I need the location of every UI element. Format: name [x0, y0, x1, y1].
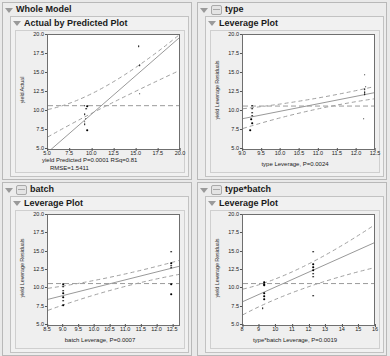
disclosure-triangle-icon[interactable]: [13, 21, 21, 26]
x-tick-label: 11.0: [120, 326, 130, 332]
x-tick-label: 10: [272, 326, 278, 332]
x-tick-label: 12.0: [151, 326, 162, 332]
data-point: [84, 123, 86, 125]
subpanel-header[interactable]: Actual by Predicted Plot: [11, 17, 188, 29]
plot-shell: yield Actual 20.017.515.012.510.07.55.0 …: [15, 30, 185, 173]
x-tick-label: 5.0: [43, 150, 51, 156]
subpanel-title: Leverage Plot: [24, 198, 83, 209]
y-tick-label: 15.0: [33, 248, 44, 254]
chart-whole-model: yield Actual 20.017.515.012.510.07.55.0 …: [16, 31, 184, 172]
y-tick-label: 15.0: [33, 69, 44, 75]
data-point: [252, 122, 254, 124]
panel-header-batch[interactable]: batch: [3, 183, 191, 196]
x-tick-label: 10.0: [275, 150, 286, 156]
y-axis-ticks: 20.017.515.012.510.07.55.0: [221, 34, 241, 148]
outer-box-batch: batch Leverage Plot yield Leverage Resid…: [2, 182, 192, 356]
y-tick-label: 20.0: [33, 211, 44, 217]
x-tick-label: 7.5: [65, 150, 73, 156]
y-axis-ticks: 20.017.515.012.510.07.55.0: [221, 214, 241, 324]
panel-header-type[interactable]: type: [198, 3, 386, 16]
y-axis-ticks: 20.017.515.012.510.07.55.0: [26, 34, 46, 148]
subpanel-header[interactable]: Leverage Plot: [206, 197, 383, 209]
data-point: [170, 267, 172, 269]
x-tick-label: 20.0: [175, 150, 186, 156]
data-point: [364, 88, 366, 90]
y-tick-label: 10.0: [33, 107, 44, 113]
data-point: [63, 304, 65, 306]
fit-line: [48, 38, 179, 149]
chart-batch: yield Leverage Residuals 20.017.515.012.…: [16, 211, 184, 348]
confidence-upper-curve: [48, 260, 179, 288]
y-tick-label: 12.5: [33, 266, 44, 272]
y-tick-label: 20.0: [228, 211, 239, 217]
data-point: [364, 93, 366, 95]
data-point: [84, 113, 86, 115]
disclosure-triangle-icon[interactable]: [208, 21, 216, 26]
subpanel-title: Leverage Plot: [219, 18, 278, 29]
x-tick-label: 8: [240, 326, 243, 332]
data-point: [313, 295, 315, 297]
data-point: [86, 108, 88, 110]
data-point: [139, 93, 141, 95]
x-tick-label: 9.0: [238, 150, 246, 156]
data-point: [263, 293, 265, 295]
data-point: [63, 286, 65, 288]
y-tick-label: 17.5: [228, 50, 239, 56]
subpanel-header[interactable]: Leverage Plot: [11, 197, 188, 209]
disclosure-triangle-icon[interactable]: [200, 8, 208, 13]
panel-type-batch: type*batch Leverage Plot yield Leverage …: [195, 180, 390, 356]
data-point: [313, 266, 315, 268]
rmse-label: RMSE=1.5411: [16, 165, 184, 171]
subpanel-title: Actual by Predicted Plot: [24, 18, 128, 29]
data-point: [252, 108, 254, 110]
data-point: [85, 118, 87, 120]
x-axis-label: type*batch Leverage, P=0.0019: [211, 337, 379, 343]
data-point: [63, 293, 65, 295]
plot-area: [242, 214, 375, 326]
x-tick-label: 12.0: [351, 150, 362, 156]
data-point: [63, 283, 65, 285]
disclosure-triangle-icon[interactable]: [5, 188, 13, 193]
y-tick-label: 7.5: [36, 303, 44, 309]
y-tick-label: 17.5: [33, 229, 44, 235]
data-point: [138, 46, 140, 48]
data-point: [87, 129, 89, 131]
panel-header-type-batch[interactable]: type*batch: [198, 183, 386, 196]
confidence-lower-curve: [48, 71, 179, 137]
y-tick-label: 17.5: [33, 50, 44, 56]
panel-type: type Leverage Plot yield Leverage Residu…: [195, 0, 390, 180]
plot-area: [47, 214, 180, 326]
data-point: [252, 112, 254, 114]
data-point: [139, 65, 141, 67]
outer-box-whole-model: Whole Model Actual by Predicted Plot yie…: [2, 2, 192, 180]
y-tick-label: 10.0: [228, 284, 239, 290]
disclosure-triangle-icon[interactable]: [5, 8, 13, 13]
plot-shell: yield Leverage Residuals 20.017.515.012.…: [210, 30, 380, 173]
x-tick-label: 9.0: [59, 326, 67, 332]
data-point: [170, 293, 172, 295]
plot-shell: yield Leverage Residuals 20.017.515.012.…: [15, 210, 185, 349]
disclosure-triangle-icon[interactable]: [200, 188, 208, 193]
inner-box-leverage-batch: Leverage Plot yield Leverage Residuals 2…: [10, 196, 189, 353]
x-tick-label: 11.5: [332, 150, 342, 156]
x-tick-label: 8.5: [43, 326, 51, 332]
plot-area: [242, 34, 375, 150]
plot-svg: [48, 35, 179, 149]
data-point: [63, 300, 65, 302]
panel-batch: batch Leverage Plot yield Leverage Resid…: [0, 180, 195, 356]
subpanel-header[interactable]: Leverage Plot: [206, 17, 383, 29]
data-point: [364, 74, 366, 76]
panel-title: batch: [30, 184, 54, 195]
plot-shell: yield Leverage Residuals 20.017.515.012.…: [210, 210, 380, 349]
panel-header-whole-model[interactable]: Whole Model: [3, 3, 191, 16]
confidence-upper-curve: [48, 35, 179, 109]
confidence-lower-curve: [243, 99, 374, 129]
disclosure-triangle-icon[interactable]: [208, 201, 216, 206]
y-tick-label: 10.0: [33, 284, 44, 290]
x-axis-ticks: 8910111213141516: [242, 324, 375, 333]
x-tick-label: 10.5: [104, 326, 115, 332]
disclosure-triangle-icon[interactable]: [13, 201, 21, 206]
y-tick-label: 15.0: [228, 248, 239, 254]
data-point: [63, 296, 65, 298]
x-tick-label: 16: [372, 326, 378, 332]
